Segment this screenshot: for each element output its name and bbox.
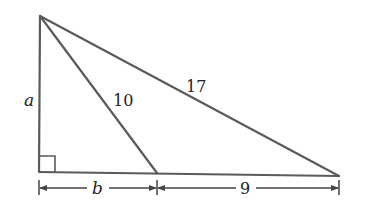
label-17: 17 [186,77,206,96]
base [39,172,339,176]
cevian-10 [40,16,157,173]
right-angle-marker [39,156,55,172]
side-a [39,16,40,172]
label-b: b [92,178,103,198]
label-a: a [24,90,34,110]
label-10: 10 [113,91,133,110]
hypotenuse-17 [40,16,339,176]
label-9: 9 [240,179,250,198]
triangle-diagram: a 10 17 b 9 [0,0,366,214]
